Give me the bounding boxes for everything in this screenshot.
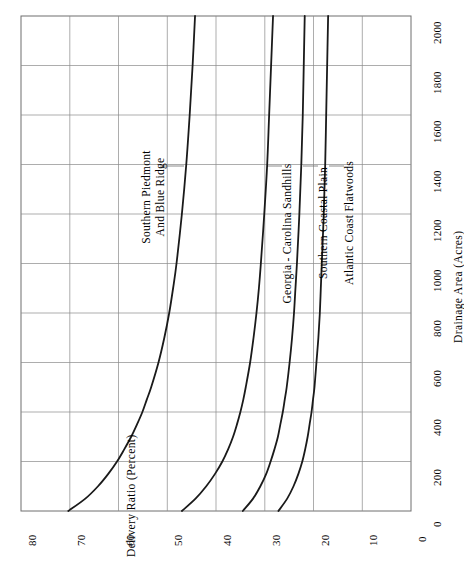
xtick-label-0: 0 (431, 521, 443, 527)
xtick-label-1600: 1600 (431, 120, 443, 143)
ytick-label-70: 70 (75, 535, 87, 546)
x-axis-title: Drainage Area (Acres) (452, 231, 464, 343)
xtick-label-200: 200 (431, 468, 443, 485)
xtick-label-1800: 1800 (431, 71, 443, 94)
xtick-label-1000: 1000 (431, 269, 443, 292)
ytick-label-50: 50 (172, 535, 184, 546)
series-label-georgia-carolina-sandhills: Georgia - Carolina Sandhills (281, 156, 295, 311)
ytick-label-80: 80 (26, 535, 38, 546)
series-label-atlantic-coast-flatwoods: Atlantic Coast Flatwoods (343, 153, 357, 293)
ytick-label-10: 10 (367, 535, 379, 546)
series-label-southern-coastal-plain: Southern Coastal Plain (317, 158, 331, 288)
xtick-label-400: 400 (431, 419, 443, 436)
ytick-label-30: 30 (270, 535, 282, 546)
ytick-label-40: 40 (221, 535, 233, 546)
y-axis-title: Delivery Ratio (Percent) (125, 434, 137, 557)
series-label-line-2: And Blue Ridge (154, 158, 166, 237)
xtick-label-800: 800 (431, 320, 443, 337)
xtick-label-600: 600 (431, 369, 443, 386)
ytick-label-0: 0 (416, 536, 428, 542)
series-label-line-1: Southern Piedmont (140, 150, 152, 244)
series-label-southern-piedmont-and-blue-ridge: Southern Piedmont And Blue Ridge (140, 132, 167, 262)
xtick-label-1400: 1400 (431, 170, 443, 193)
xtick-label-2000: 2000 (431, 21, 443, 44)
ytick-label-20: 20 (319, 535, 331, 546)
xtick-label-1200: 1200 (431, 219, 443, 242)
